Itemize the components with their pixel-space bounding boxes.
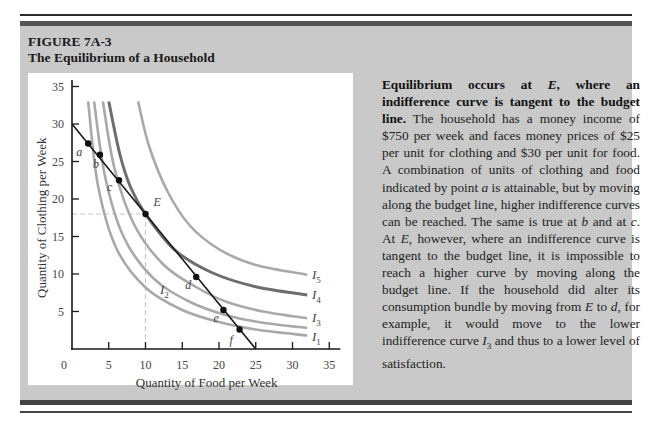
curve-label-subscript: 4 bbox=[316, 295, 321, 305]
caption-text: E bbox=[585, 299, 593, 314]
point-e bbox=[220, 307, 226, 313]
point-label-b: b bbox=[93, 157, 99, 171]
x-axis-title: Quantity of Food per Week bbox=[136, 375, 278, 390]
y-tick-label: 5 bbox=[58, 305, 64, 319]
caption-text: E bbox=[548, 77, 557, 92]
chart-area: 051015202530355101520253035Quantity of F… bbox=[28, 73, 353, 385]
x-tick-label: 20 bbox=[213, 358, 225, 372]
indifference-curve-i2 bbox=[94, 102, 307, 329]
y-tick-label: 20 bbox=[52, 192, 64, 206]
point-f bbox=[236, 326, 242, 332]
point-label-a: a bbox=[76, 145, 82, 159]
point-label-d: d bbox=[185, 278, 192, 292]
curve-label-i4: I4 bbox=[311, 287, 321, 305]
curve-label-subscript: 3 bbox=[316, 318, 321, 328]
x-tick-label: 35 bbox=[323, 358, 335, 372]
curve-label-subscript: 2 bbox=[164, 290, 169, 300]
y-axis-title: Quantity of Clothing per Week bbox=[34, 137, 49, 298]
point-label-E: E bbox=[153, 195, 162, 209]
x-tick-label: 0 bbox=[61, 358, 67, 372]
point-d bbox=[193, 274, 199, 280]
indifference-curve-i4 bbox=[109, 102, 307, 296]
point-label-f: f bbox=[230, 333, 235, 347]
curve-label-subscript: 5 bbox=[316, 275, 321, 285]
x-tick-label: 30 bbox=[287, 358, 299, 372]
curve-label-i5: I5 bbox=[311, 267, 321, 285]
x-tick-label: 15 bbox=[176, 358, 188, 372]
x-tick-label: 10 bbox=[140, 358, 152, 372]
point-c bbox=[116, 177, 122, 183]
y-tick-label: 10 bbox=[52, 267, 64, 281]
x-tick-label: 25 bbox=[250, 358, 262, 372]
indifference-curve-i5 bbox=[138, 102, 307, 275]
curve-label-i1: I1 bbox=[311, 329, 321, 347]
caption-text: to bbox=[593, 299, 611, 314]
caption-text: Equilibrium occurs at bbox=[382, 77, 548, 92]
caption-text: and at bbox=[588, 214, 631, 229]
point-E bbox=[142, 211, 148, 217]
y-tick-label: 15 bbox=[52, 230, 64, 244]
point-label-c: c bbox=[107, 180, 113, 194]
curve-label-subscript: 1 bbox=[316, 337, 321, 347]
y-tick-label: 30 bbox=[52, 117, 64, 131]
figure-caption: Equilibrium occurs at E, where an indiff… bbox=[382, 76, 640, 372]
y-tick-label: 35 bbox=[52, 80, 64, 94]
point-a bbox=[85, 140, 91, 146]
point-label-e: e bbox=[213, 311, 219, 325]
y-tick-label: 25 bbox=[52, 155, 64, 169]
indifference-curve-i1 bbox=[88, 102, 307, 336]
curve-label-i3: I3 bbox=[311, 310, 321, 328]
caption-text: E bbox=[401, 231, 409, 246]
x-tick-label: 5 bbox=[106, 358, 112, 372]
